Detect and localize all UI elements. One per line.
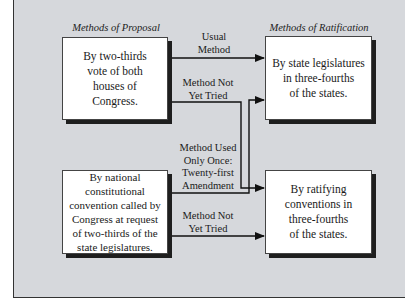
label-method-not-yet-tried-2: Method Not Yet Tried	[170, 210, 246, 235]
label-method-not-yet-tried-1: Method Not Yet Tried	[170, 77, 246, 102]
box-proposal-convention-text: By national constitutional convention ca…	[69, 170, 161, 254]
box-proposal-convention: By national constitutional convention ca…	[62, 170, 168, 254]
label-usual-method: Usual Method	[186, 31, 242, 56]
box-ratify-legislatures: By state legislatures in three-fourths o…	[265, 36, 372, 120]
box-ratify-conventions-text: By ratifying conventions in three-fourth…	[285, 182, 352, 242]
box-proposal-congress-text: By two-thirds vote of both houses of Con…	[83, 49, 147, 109]
box-proposal-congress: By two-thirds vote of both houses of Con…	[62, 37, 168, 120]
label-method-used-only-once: Method Used Only Once: Twenty-first Amen…	[168, 142, 248, 192]
box-ratify-conventions: By ratifying conventions in three-fourth…	[265, 170, 372, 254]
box-ratify-legislatures-text: By state legislatures in three-fourths o…	[272, 56, 365, 101]
